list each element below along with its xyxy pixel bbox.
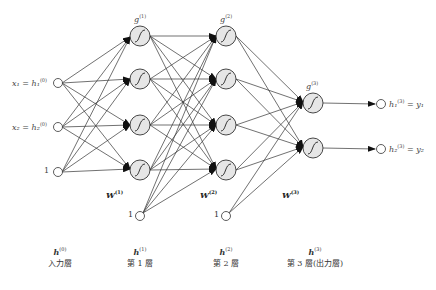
- output-label-y1: h₁(3) = y₁: [389, 98, 424, 109]
- layer-caption-layer2: h(2) 第 2 層: [196, 244, 256, 269]
- weight-label-w1: W(1): [106, 189, 123, 200]
- bias-label-2: 1: [214, 210, 219, 219]
- activation-label-g3: g(3): [306, 80, 318, 91]
- input-label-bias: 1: [44, 166, 49, 175]
- layer1-nodes: [130, 26, 150, 180]
- layer-caption-layer1: h(1) 第 1 層: [110, 244, 170, 269]
- layer2-nodes: [216, 26, 236, 180]
- layer-caption-output: h(3) 第 3 層(出力層): [265, 244, 365, 269]
- input-nodes: [54, 79, 63, 177]
- edges-input-to-layer1: [62, 37, 130, 172]
- activation-label-g1: g(1): [134, 13, 146, 24]
- input-label-x1: x₁ = h₁(0): [12, 77, 47, 88]
- sigmoid-icons: [135, 30, 318, 176]
- edges-layer2-to-layer3: [229, 36, 303, 213]
- edges-layer3-to-output: [323, 103, 375, 149]
- weight-label-w2: W(2): [200, 189, 217, 200]
- output-label-y2: h₂(3) = y₂: [389, 143, 424, 154]
- weight-label-w3: W(3): [282, 189, 299, 200]
- activation-label-g2: g(2): [220, 13, 232, 24]
- input-node-x2: [54, 123, 63, 132]
- edges-layer1-to-layer2: [143, 36, 216, 213]
- output-nodes: [377, 100, 386, 154]
- layer-caption-input: h(0) 入力層: [30, 244, 90, 269]
- input-label-x2: x₂ = h₂(0): [12, 121, 47, 132]
- neuron-nodes: [130, 26, 323, 180]
- input-node-bias: [54, 168, 63, 177]
- input-node-x1: [54, 79, 63, 88]
- bias-label-1: 1: [128, 210, 133, 219]
